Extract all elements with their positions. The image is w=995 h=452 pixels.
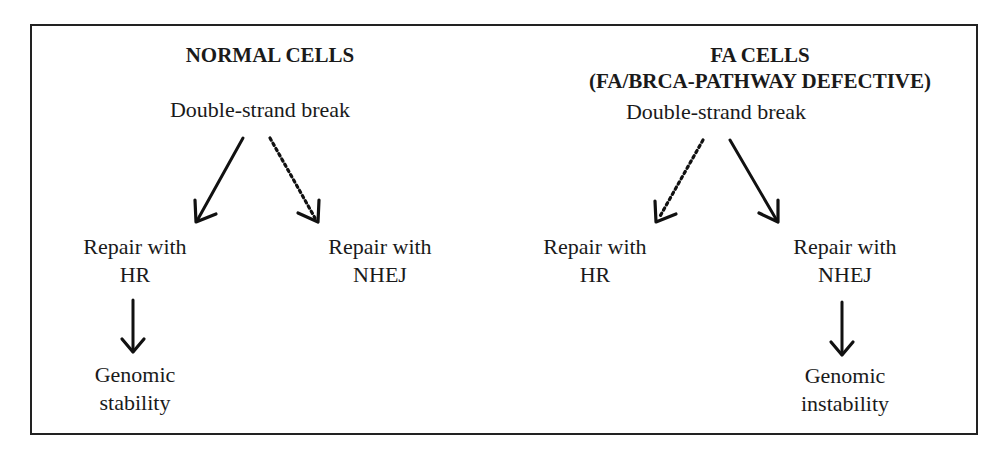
normal-dotted-arrow-icon (270, 138, 319, 222)
arrows-layer (0, 0, 995, 452)
fa-solid-arrow-icon (730, 140, 778, 222)
normal-solid-arrow-icon (195, 138, 243, 222)
fa-down-arrow-icon (831, 302, 853, 355)
normal-down-arrow-icon (122, 300, 144, 352)
fa-dotted-arrow-icon (655, 140, 703, 222)
